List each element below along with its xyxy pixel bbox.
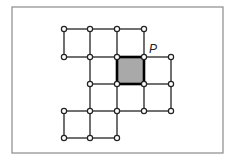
grid-node [141,54,146,59]
grid-node [61,135,66,140]
grid-diagram: P [0,0,236,162]
grid-node [114,26,119,31]
grid-node [168,108,173,113]
grid-node [114,54,119,59]
grid-node [61,54,66,59]
grid-node [114,81,119,86]
grid-node [168,81,173,86]
grid-node [61,108,66,113]
shaded-square [117,57,144,84]
grid-node [87,81,92,86]
grid-node [114,108,119,113]
grid-node [141,26,146,31]
grid-node [87,26,92,31]
grid-node [168,54,173,59]
grid-node [114,135,119,140]
grid-node [87,135,92,140]
grid-node [61,26,66,31]
grid-node [87,54,92,59]
grid-node [141,108,146,113]
grid-node [87,108,92,113]
point-label-p: P [149,42,157,56]
grid-node [141,81,146,86]
